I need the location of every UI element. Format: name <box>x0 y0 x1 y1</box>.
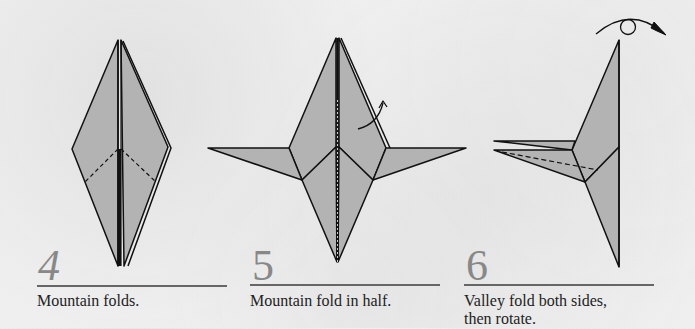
step-number-4: 4 <box>38 244 60 288</box>
step-5-figure <box>208 38 466 262</box>
step-6-caption-line-1: Valley fold both sides, <box>464 291 607 311</box>
step-4-caption: Mountain folds. <box>37 291 139 311</box>
step-5-caption: Mountain fold in half. <box>250 291 391 311</box>
step-4-divider <box>37 285 227 287</box>
step-number-5: 5 <box>252 244 274 288</box>
turn-over-loop-icon <box>621 20 636 35</box>
step-6-divider <box>464 284 654 286</box>
step-6-caption-line-2: then rotate. <box>464 309 536 329</box>
step-4-figure <box>72 40 171 266</box>
step-6-figure <box>494 19 666 267</box>
step-5-divider <box>250 284 440 286</box>
step-number-6: 6 <box>466 244 488 288</box>
